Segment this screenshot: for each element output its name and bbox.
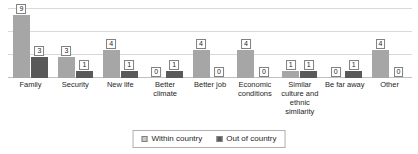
bar-group: 01 (322, 8, 367, 78)
bar[interactable] (282, 71, 299, 78)
legend-swatch-icon (216, 136, 222, 142)
category-label: Be far away (322, 80, 367, 116)
bar[interactable] (300, 71, 317, 78)
bar[interactable] (76, 71, 93, 78)
bar-value-label: 0 (331, 67, 341, 77)
bar-value-label: 1 (169, 60, 179, 70)
bar-group: 31 (53, 8, 98, 78)
bar-value-label: 1 (286, 60, 296, 70)
category-label: Better climate (143, 80, 188, 116)
category-label: New life (98, 80, 143, 116)
category-label: Better job (188, 80, 233, 116)
category-label: Economic conditions (232, 80, 277, 116)
category-axis-labels: FamilySecurityNew lifeBetter climateBett… (8, 80, 412, 116)
bar-value-label: 0 (259, 67, 269, 77)
bar-slot: 0 (211, 8, 228, 78)
bar[interactable] (103, 50, 120, 78)
bar-slot: 4 (237, 8, 254, 78)
bar[interactable] (372, 50, 389, 78)
bar-group: 41 (98, 8, 143, 78)
bar-chart: 933141014040110140 FamilySecurityNew lif… (0, 0, 418, 154)
bar-groups: 933141014040110140 (8, 8, 412, 78)
legend-label: Out of country (226, 134, 276, 144)
bar-value-label: 1 (79, 60, 89, 70)
bar[interactable] (31, 57, 48, 78)
legend-entry[interactable]: Within country (142, 134, 203, 144)
bar-value-label: 0 (214, 67, 224, 77)
bar[interactable] (193, 50, 210, 78)
bar-group: 40 (188, 8, 233, 78)
bar-value-label: 9 (16, 4, 26, 14)
bar-value-label: 4 (196, 39, 206, 49)
legend-label: Within country (152, 134, 203, 144)
bar-group: 11 (277, 8, 322, 78)
bar-slot: 0 (255, 8, 272, 78)
bar-slot: 4 (193, 8, 210, 78)
bar[interactable] (58, 57, 75, 78)
bar-value-label: 3 (34, 46, 44, 56)
bar-value-label: 4 (106, 39, 116, 49)
bar-slot: 3 (31, 8, 48, 78)
bar[interactable] (13, 15, 30, 78)
bar-slot: 1 (121, 8, 138, 78)
bar-group: 93 (8, 8, 53, 78)
bar-slot: 4 (372, 8, 389, 78)
bar-slot: 1 (282, 8, 299, 78)
bar-slot: 4 (103, 8, 120, 78)
legend-swatch-icon (142, 136, 148, 142)
bar[interactable] (237, 50, 254, 78)
bar-value-label: 1 (349, 60, 359, 70)
bar-value-label: 4 (376, 39, 386, 49)
bar-slot: 0 (390, 8, 407, 78)
bar-value-label: 1 (304, 60, 314, 70)
bar-slot: 3 (58, 8, 75, 78)
bar-slot: 1 (345, 8, 362, 78)
chart-legend: Within countryOut of country (133, 130, 286, 148)
bar[interactable] (121, 71, 138, 78)
bar-value-label: 4 (241, 39, 251, 49)
plot-area: 933141014040110140 (8, 8, 412, 78)
bar-group: 40 (367, 8, 412, 78)
bar-slot: 9 (13, 8, 30, 78)
legend-entry[interactable]: Out of country (216, 134, 276, 144)
category-label: Similar culture and ethnic similarity (277, 80, 322, 116)
bar-slot: 0 (148, 8, 165, 78)
bar-group: 01 (143, 8, 188, 78)
category-label: Family (8, 80, 53, 116)
category-label: Other (367, 80, 412, 116)
bar-value-label: 0 (151, 67, 161, 77)
bar-value-label: 0 (394, 67, 404, 77)
bar-slot: 1 (166, 8, 183, 78)
bar[interactable] (166, 71, 183, 78)
bar-slot: 1 (76, 8, 93, 78)
category-label: Security (53, 80, 98, 116)
bar-value-label: 1 (124, 60, 134, 70)
bar-value-label: 3 (61, 46, 71, 56)
bar-slot: 1 (300, 8, 317, 78)
bar[interactable] (345, 71, 362, 78)
bar-group: 40 (232, 8, 277, 78)
bar-slot: 0 (327, 8, 344, 78)
